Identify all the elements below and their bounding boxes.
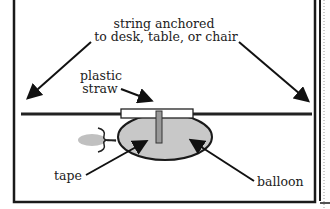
arrow-tape	[86, 142, 145, 175]
arrow-string-right	[239, 42, 307, 100]
arrow-straw	[121, 89, 150, 100]
tape-strip	[156, 111, 162, 143]
arrow-balloon	[192, 141, 254, 181]
balloon-nozzle-shadow	[78, 134, 106, 146]
label-string-line2: to desk, table, or chair	[94, 29, 238, 44]
label-tape: tape	[54, 168, 82, 183]
label-straw-line2: straw	[82, 81, 118, 96]
balloon-rocket-diagram: string anchored to desk, table, or chair…	[0, 0, 330, 209]
balloon	[118, 114, 212, 160]
label-balloon: balloon	[257, 174, 304, 189]
